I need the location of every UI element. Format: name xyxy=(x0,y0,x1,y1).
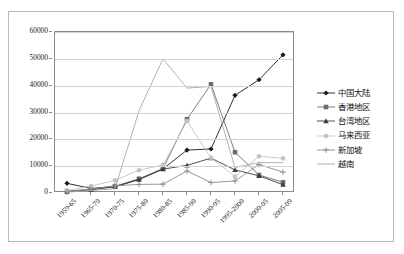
legend-item: 马来西亚 xyxy=(316,129,392,143)
legend-item: 中国大陆 xyxy=(316,86,392,100)
data-point xyxy=(257,154,262,159)
x-tick-label: 1975-80 xyxy=(103,198,151,246)
y-tick-mark xyxy=(49,138,52,139)
x-tick-mark xyxy=(210,192,211,195)
series-4 xyxy=(65,119,286,193)
series-6 xyxy=(67,59,283,192)
y-tick-mark xyxy=(49,31,52,32)
data-point xyxy=(232,178,238,184)
y-tick-label: 60000 xyxy=(30,27,48,34)
x-tick-label: 1990-95 xyxy=(175,198,223,246)
x-tick-label: 1965-70 xyxy=(55,198,103,246)
legend-item: 越南 xyxy=(316,157,392,171)
y-tick-label: 40000 xyxy=(30,81,48,88)
x-tick-mark xyxy=(186,192,187,195)
data-point xyxy=(64,181,69,186)
legend-label: 马来西亚 xyxy=(338,131,370,139)
series-2 xyxy=(65,82,286,193)
data-point xyxy=(233,150,238,155)
series-line xyxy=(67,84,283,191)
y-tick-label: 0 xyxy=(44,188,48,195)
x-axis: 1959-651965-701970-751975-801980-851985-… xyxy=(54,192,294,248)
data-point xyxy=(280,169,286,175)
data-point xyxy=(184,168,190,174)
y-tick-label: 10000 xyxy=(30,161,48,168)
x-tick-label: 1980-85 xyxy=(127,198,175,246)
x-tick-label: 1985-90 xyxy=(151,198,199,246)
legend-label: 越南 xyxy=(338,160,354,168)
legend-label: 台湾地区 xyxy=(338,117,370,125)
gridline xyxy=(55,32,293,33)
data-point xyxy=(232,93,237,98)
legend-item: 香港地区 xyxy=(316,100,392,114)
data-point xyxy=(136,182,142,188)
legend-item: 台湾地区 xyxy=(316,114,392,128)
x-tick-mark xyxy=(282,192,283,195)
x-tick-mark xyxy=(162,192,163,195)
y-tick-mark xyxy=(49,165,52,166)
x-tick-mark xyxy=(234,192,235,195)
legend-marker-circle-icon xyxy=(316,130,336,142)
legend-item: 新加坡 xyxy=(316,143,392,157)
data-point xyxy=(281,156,286,161)
data-point xyxy=(208,180,214,186)
y-tick-mark xyxy=(49,58,52,59)
legend-label: 中国大陆 xyxy=(338,89,370,97)
gridline xyxy=(55,166,293,167)
legend-marker-diamond-icon xyxy=(316,87,336,99)
series-line xyxy=(67,121,283,191)
legend-marker-square-icon xyxy=(316,101,336,113)
legend-marker-none-icon xyxy=(316,158,336,170)
legend-marker-triangle-icon xyxy=(316,115,336,127)
y-tick-mark xyxy=(49,192,52,193)
y-tick-mark xyxy=(49,112,52,113)
series-line xyxy=(67,59,283,192)
data-point xyxy=(208,146,213,151)
x-tick-mark xyxy=(90,192,91,195)
y-tick-label: 30000 xyxy=(30,108,48,115)
series-line xyxy=(67,55,283,189)
chart-legend: 中国大陆香港地区台湾地区马来西亚新加坡越南 xyxy=(316,86,392,174)
y-tick-label: 50000 xyxy=(30,54,48,61)
x-tick-label: 2005-09 xyxy=(247,198,295,246)
data-point xyxy=(137,168,142,173)
gridline xyxy=(55,139,293,140)
legend-label: 新加坡 xyxy=(338,146,362,154)
data-point xyxy=(160,181,166,187)
legend-label: 香港地区 xyxy=(338,103,370,111)
x-tick-mark xyxy=(66,192,67,195)
plot-area xyxy=(54,31,294,192)
y-tick-label: 20000 xyxy=(30,135,48,142)
gridline xyxy=(55,86,293,87)
x-tick-mark xyxy=(258,192,259,195)
x-tick-mark xyxy=(114,192,115,195)
gridline xyxy=(55,59,293,60)
x-tick-label: 1970-75 xyxy=(79,198,127,246)
x-tick-label: 1995-2000 xyxy=(199,198,247,246)
gridline xyxy=(55,113,293,114)
data-point xyxy=(185,119,190,124)
x-tick-mark xyxy=(138,192,139,195)
x-tick-label: 2000-05 xyxy=(223,198,271,246)
data-point xyxy=(209,156,214,161)
y-tick-mark xyxy=(49,85,52,86)
chart-figure: 0100002000030000400005000060000 1959-651… xyxy=(0,0,404,254)
legend-marker-plus-icon xyxy=(316,144,336,156)
y-axis: 0100002000030000400005000060000 xyxy=(12,31,52,192)
